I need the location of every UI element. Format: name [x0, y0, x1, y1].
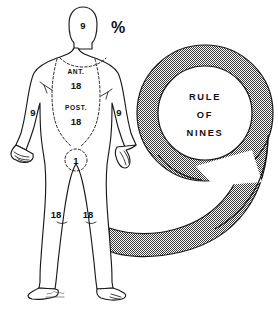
left-arm-percentage: 9 [30, 107, 35, 118]
anterior-trunk-percentage: 18 [71, 80, 82, 91]
right-arm-percentage: 9 [116, 107, 121, 118]
left-leg-percentage: 18 [51, 209, 62, 220]
head-percentage: 9 [80, 20, 85, 31]
nine-text-line-2: OF [197, 110, 213, 120]
numeral-nine-graphic [109, 40, 278, 257]
anterior-trunk-label: ANT. [68, 68, 85, 75]
posterior-trunk-label: POST. [65, 104, 87, 111]
right-leg-percentage: 18 [83, 209, 94, 220]
percent-symbol: % [111, 19, 125, 36]
nine-text-line-1: RULE [189, 92, 221, 102]
groin-percentage: 1 [73, 155, 79, 166]
nine-text-line-3: NINES [187, 128, 224, 138]
posterior-trunk-percentage: 18 [71, 116, 82, 127]
left-foot-outline [28, 288, 58, 299]
rule-of-nines-diagram: RULE OF NINES [0, 0, 278, 309]
left-hand-outline [11, 145, 33, 162]
